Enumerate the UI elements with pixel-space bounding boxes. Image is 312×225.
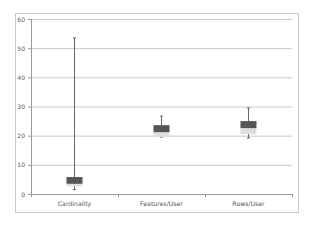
category-label: Rows/User <box>232 200 265 207</box>
y-tick-label: 0 <box>21 191 25 198</box>
y-tick-label: 50 <box>17 45 25 52</box>
box-upper-1 <box>154 125 170 132</box>
box-upper-0 <box>67 177 83 184</box>
box-upper-2 <box>241 121 257 128</box>
y-tick-label: 20 <box>17 132 25 139</box>
category-label: Cardinality <box>58 200 92 208</box>
y-tick-label: 40 <box>17 74 25 81</box>
y-tick-label: 10 <box>17 161 25 168</box>
box-lower-1 <box>154 132 170 137</box>
box-plot-chart: 0102030405060CardinalityFeatures/UserRow… <box>0 0 312 225</box>
box-lower-2 <box>241 128 257 134</box>
y-tick-label: 30 <box>17 103 25 110</box>
box-lower-0 <box>67 184 83 186</box>
y-tick-label: 60 <box>17 16 25 23</box>
category-label: Features/User <box>140 200 183 207</box>
